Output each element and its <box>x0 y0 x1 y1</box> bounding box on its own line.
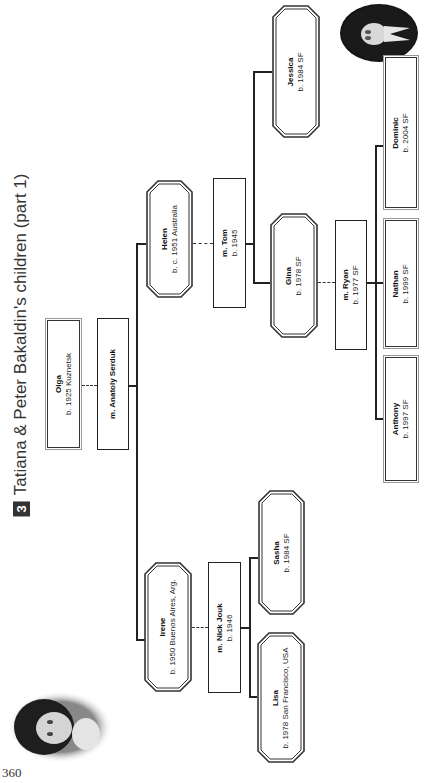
portrait-face-icon <box>340 4 418 62</box>
person-detail: b. 1997 SF <box>401 399 411 438</box>
portrait-photo-top-right <box>340 4 418 62</box>
person-name: m. Anatoly Serduk <box>108 349 118 419</box>
connector-gina-children-trunk <box>375 145 377 419</box>
connector-to-lisa <box>249 696 257 698</box>
person-box-helen: Helen b. c. 1951 Australia <box>146 180 193 298</box>
spouse-box-anatoly: m. Anatoly Serduk <box>97 318 129 450</box>
person-detail: b. 1925 Kuznetsk <box>64 353 74 415</box>
section-number-badge: 3 <box>13 501 30 516</box>
person-box-lisa: Lisa b. 1978 San Francisco, USA <box>257 632 305 763</box>
person-detail: b. 1946 <box>225 603 235 652</box>
person-name: Olga <box>54 353 64 415</box>
person-detail: b. 2004 SF <box>401 113 411 152</box>
person-detail: b. c. 1951 Australia <box>170 205 180 273</box>
connector-to-jessica <box>253 71 272 73</box>
person-detail: b. 1950 Buenos Aires, Arg. <box>168 580 178 675</box>
person-name: Nathan <box>391 264 401 303</box>
connector-helen-children-trunk <box>253 71 255 283</box>
spouse-box-nick: m. Nick Jouk b. 1946 <box>208 562 241 693</box>
person-detail: b. 1977 SF <box>351 265 361 304</box>
person-detail: b. 1984 SF <box>282 533 292 572</box>
connector-olga-children-trunk <box>136 243 138 640</box>
connector-to-gina <box>253 282 270 284</box>
person-name: Dominic <box>391 113 401 152</box>
connector-irene-children-trunk <box>249 557 251 697</box>
connector-to-dominic <box>375 145 383 147</box>
person-box-anthony: Anthony b. 1997 SF <box>383 355 419 483</box>
person-name: Jessica <box>286 52 296 91</box>
person-name: Sasha <box>272 533 282 572</box>
spouse-box-ryan: m. Ryan b. 1977 SF <box>335 220 367 350</box>
person-detail: b. 1984 SF <box>296 52 306 91</box>
person-box-jessica: Jessica b. 1984 SF <box>272 5 320 138</box>
person-name: Irene <box>158 580 168 675</box>
person-detail: b. 1945 <box>230 229 240 257</box>
page-title: Tatiana & Peter Bakaldin's children (par… <box>11 174 31 496</box>
connector-to-sasha <box>249 557 258 559</box>
marriage-line-olga-anatoly <box>82 385 97 386</box>
person-detail: b. 1999 SF <box>401 264 411 303</box>
person-box-nathan: Nathan b. 1999 SF <box>383 218 419 349</box>
person-name: Anthony <box>391 399 401 438</box>
connector-to-helen <box>136 243 146 245</box>
section-title: 3 Tatiana & Peter Bakaldin's children (p… <box>8 140 34 550</box>
portrait-face-icon <box>6 690 114 764</box>
person-name: Helen <box>160 205 170 273</box>
portrait-photo-bottom-left <box>6 690 114 764</box>
marriage-line-gina-ryan <box>318 282 335 283</box>
person-name: Gina <box>284 256 294 295</box>
person-box-gina: Gina b. 1978 SF <box>270 213 318 338</box>
person-name: m. Ryan <box>341 265 351 304</box>
spouse-box-tom: m. Tom b. 1945 <box>213 178 246 308</box>
person-detail: b. 1978 SF <box>294 256 304 295</box>
person-name: m. Nick Jouk <box>215 603 225 652</box>
person-box-sasha: Sasha b. 1984 SF <box>258 490 305 615</box>
person-box-irene: Irene b. 1950 Buenos Aires, Arg. <box>144 562 192 692</box>
person-name: m. Tom <box>220 229 230 257</box>
person-box-olga: Olga b. 1925 Kuznetsk <box>45 318 82 450</box>
connector-to-anthony <box>375 418 383 420</box>
marriage-line-irene-nick <box>192 627 208 628</box>
person-name: Lisa <box>271 647 281 748</box>
marriage-line-helen-tom <box>193 243 213 244</box>
page-number: 360 <box>2 765 22 781</box>
person-detail: b. 1978 San Francisco, USA <box>281 647 291 748</box>
person-box-dominic: Dominic b. 2004 SF <box>383 55 419 210</box>
